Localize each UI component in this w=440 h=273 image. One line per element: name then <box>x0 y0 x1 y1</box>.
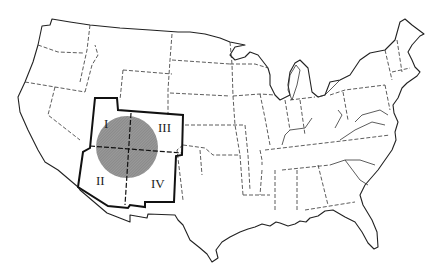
us-outline <box>18 19 424 262</box>
us-map: I III II IV <box>0 0 440 273</box>
quadrant-label-iii: III <box>158 121 171 134</box>
quadrant-label-i: I <box>104 117 108 130</box>
map-canvas <box>0 0 440 273</box>
lake-michigan <box>288 65 300 100</box>
lake-shoreline <box>318 80 340 97</box>
state-borders <box>25 25 410 210</box>
quadrant-label-iv: IV <box>151 177 165 190</box>
quadrant-label-ii: II <box>96 174 105 187</box>
